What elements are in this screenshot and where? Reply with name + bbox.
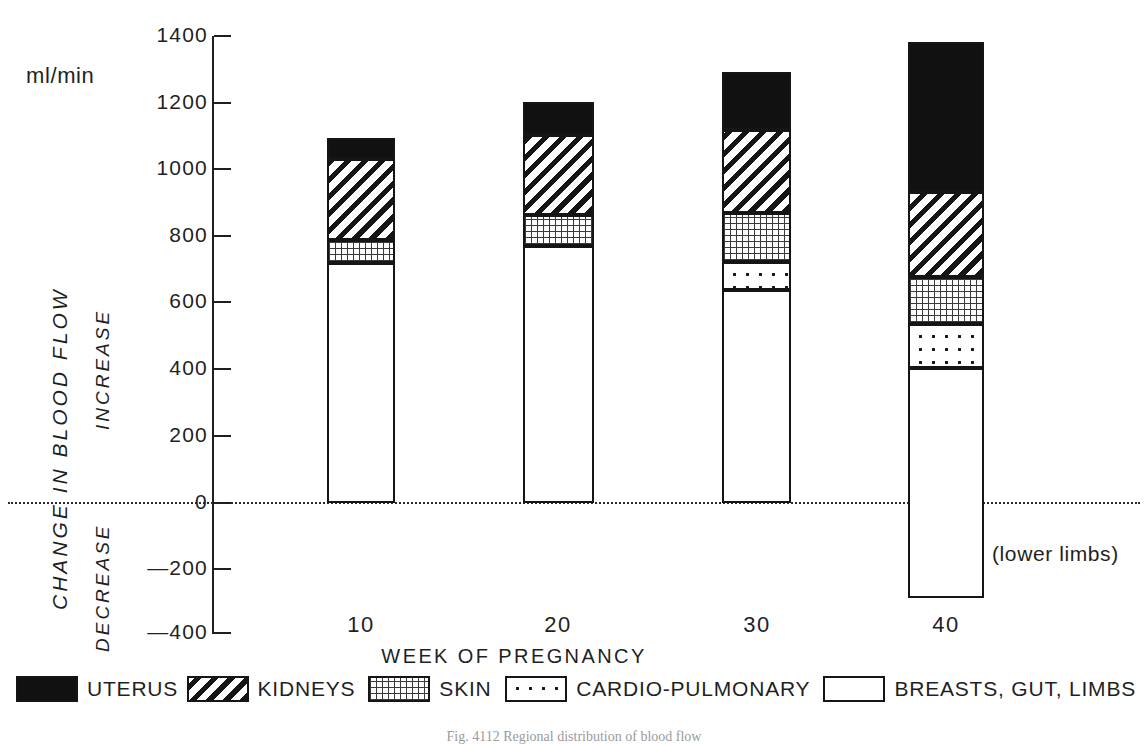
bar-segment-uterus[interactable] [722, 72, 791, 130]
legend-swatch-cardio-icon [505, 676, 567, 702]
legend-item-other[interactable]: BREASTS, GUT, LIMBS [823, 676, 1136, 702]
legend-label-cardio: CARDIO-PULMONARY [576, 677, 810, 701]
y-tick-mark [214, 35, 231, 37]
y-tick-label: —400 [122, 621, 208, 642]
chart-legend: UTERUSKIDNEYSSKINCARDIO-PULMONARYBREASTS… [16, 672, 1136, 706]
y-tick-row: —400 [116, 632, 212, 633]
y-tick-label: 0 [122, 491, 208, 512]
bar-segment-skin[interactable] [908, 277, 984, 324]
y-tick-label: —200 [122, 557, 208, 578]
y-tick-label: 800 [122, 224, 208, 245]
bar-segment-cardio-pulmonary[interactable] [722, 262, 791, 290]
y-tick-row: 400 [116, 368, 212, 369]
x-axis-title-text: WEEK OF PREGNANCY [381, 645, 646, 667]
y-tick-mark [214, 632, 231, 634]
bar-segment-kidneys[interactable] [523, 135, 594, 215]
bar-segment-kidneys[interactable] [327, 159, 395, 240]
bar-segment-kidneys[interactable] [908, 192, 984, 277]
legend-swatch-skin-icon [368, 676, 430, 702]
bar-segment-breasts-gut-limbs[interactable] [327, 263, 395, 503]
legend-item-cardio[interactable]: CARDIO-PULMONARY [505, 676, 810, 702]
bar-segment-uterus[interactable] [327, 138, 395, 159]
y-tick-mark [214, 168, 231, 170]
y-tick-row: 1000 [116, 168, 212, 169]
bar-segment-skin[interactable] [523, 215, 594, 246]
legend-item-skin[interactable]: SKIN [368, 676, 491, 702]
y-tick-label: 1400 [122, 24, 208, 45]
y-tick-label: 600 [122, 290, 208, 311]
bar-week-40[interactable] [908, 42, 984, 598]
bar-segment-breasts-gut-limbs[interactable] [523, 246, 594, 503]
y-tick-label: 400 [122, 357, 208, 378]
y-tick-row: 0 [116, 502, 212, 503]
figure-caption: Fig. 4112 Regional distribution of blood… [0, 729, 1148, 744]
bar-segment-uterus[interactable] [908, 42, 984, 192]
y-tick-label: 1000 [122, 157, 208, 178]
y-axis-title: CHANGE IN BLOOD FLOW [48, 287, 72, 610]
y-tick-mark [214, 435, 231, 437]
bar-segment-skin[interactable] [722, 213, 791, 262]
bar-week-10[interactable] [327, 138, 395, 503]
y-tick-mark [214, 368, 231, 370]
y-tick-row: —200 [116, 568, 212, 569]
y-axis-units-label: ml/min [26, 63, 94, 89]
legend-item-kidneys[interactable]: KIDNEYS [187, 676, 356, 702]
y-tick-mark [214, 301, 231, 303]
y-axis-decrease-label: DECREASE [92, 523, 114, 652]
legend-label-uterus: UTERUS [87, 677, 178, 701]
y-axis-line [212, 36, 214, 634]
bar-segment-kidneys[interactable] [722, 130, 791, 213]
lower-limbs-annotation: (lower limbs) [992, 542, 1119, 566]
y-tick-mark [214, 502, 231, 504]
bar-week-20[interactable] [523, 102, 594, 503]
legend-swatch-kidneys-icon [187, 676, 249, 702]
y-tick-mark [214, 102, 231, 104]
y-tick-mark [214, 568, 231, 570]
x-tick-label-20: 20 [518, 612, 598, 638]
bar-week-30[interactable] [722, 72, 791, 503]
x-tick-label-30: 30 [717, 612, 797, 638]
bar-segment-breasts-gut-limbs[interactable] [908, 368, 984, 598]
y-axis-increase-label: INCREASE [92, 309, 114, 430]
legend-swatch-uterus-icon [16, 676, 78, 702]
chart-plot-area: ml/min 1400120010008006004002000—200—400… [0, 0, 1148, 744]
legend-item-uterus[interactable]: UTERUS [16, 676, 178, 702]
y-tick-row: 200 [116, 435, 212, 436]
y-tick-row: 800 [116, 235, 212, 236]
bar-segment-uterus[interactable] [523, 102, 594, 135]
x-tick-label-40: 40 [906, 612, 986, 638]
legend-swatch-other-icon [823, 676, 885, 702]
y-tick-label: 200 [122, 424, 208, 445]
x-axis-title: WEEK OF PREGNANCY [0, 645, 1148, 668]
y-tick-row: 1400 [116, 35, 212, 36]
bar-segment-cardio-pulmonary[interactable] [908, 324, 984, 368]
x-tick-label-10: 10 [321, 612, 401, 638]
y-tick-mark [214, 235, 231, 237]
bar-segment-breasts-gut-limbs[interactable] [722, 290, 791, 503]
legend-label-kidneys: KIDNEYS [258, 677, 356, 701]
y-tick-label: 1200 [122, 91, 208, 112]
legend-label-other: BREASTS, GUT, LIMBS [894, 677, 1136, 701]
y-tick-row: 1200 [116, 102, 212, 103]
y-tick-row: 600 [116, 301, 212, 302]
legend-label-skin: SKIN [439, 677, 491, 701]
bar-segment-skin[interactable] [327, 240, 395, 263]
